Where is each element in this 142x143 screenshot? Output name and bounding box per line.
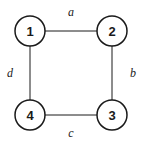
node-1-label: 1 xyxy=(26,24,33,39)
edge-c-label: c xyxy=(68,126,74,140)
node-4-label: 4 xyxy=(26,108,34,123)
edge-d-label: d xyxy=(7,66,14,80)
graph-svg: 1 2 3 4 a b c d xyxy=(0,0,142,143)
node-3: 3 xyxy=(97,100,127,130)
graph-diagram: 1 2 3 4 a b c d xyxy=(0,0,142,143)
node-2: 2 xyxy=(97,16,127,46)
node-4: 4 xyxy=(15,100,45,130)
edge-a-label: a xyxy=(68,5,74,19)
node-3-label: 3 xyxy=(108,108,115,123)
edge-b-label: b xyxy=(130,66,136,80)
node-2-label: 2 xyxy=(108,24,115,39)
node-1: 1 xyxy=(15,16,45,46)
